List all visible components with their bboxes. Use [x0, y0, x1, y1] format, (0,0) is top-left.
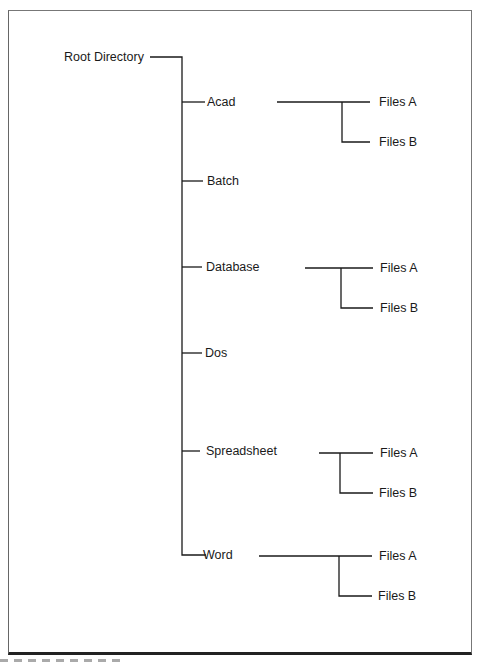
node-database-files-a: Files A: [380, 261, 418, 275]
node-acad-files-b: Files B: [379, 135, 417, 149]
node-database-files-b: Files B: [380, 301, 418, 315]
node-spreadsheet: Spreadsheet: [206, 444, 277, 458]
node-word-files-a: Files A: [379, 549, 417, 563]
node-word-files-b: Files B: [378, 589, 416, 603]
node-spreadsheet-files-b: Files B: [379, 486, 417, 500]
node-dos: Dos: [205, 346, 227, 360]
node-root: Root Directory: [64, 50, 144, 64]
node-database: Database: [206, 260, 260, 274]
node-word: Word: [203, 548, 233, 562]
node-spreadsheet-files-a: Files A: [380, 446, 418, 460]
node-batch: Batch: [207, 174, 239, 188]
node-acad-files-a: Files A: [379, 95, 417, 109]
trunk-line: [150, 57, 206, 555]
node-acad: Acad: [207, 95, 236, 109]
